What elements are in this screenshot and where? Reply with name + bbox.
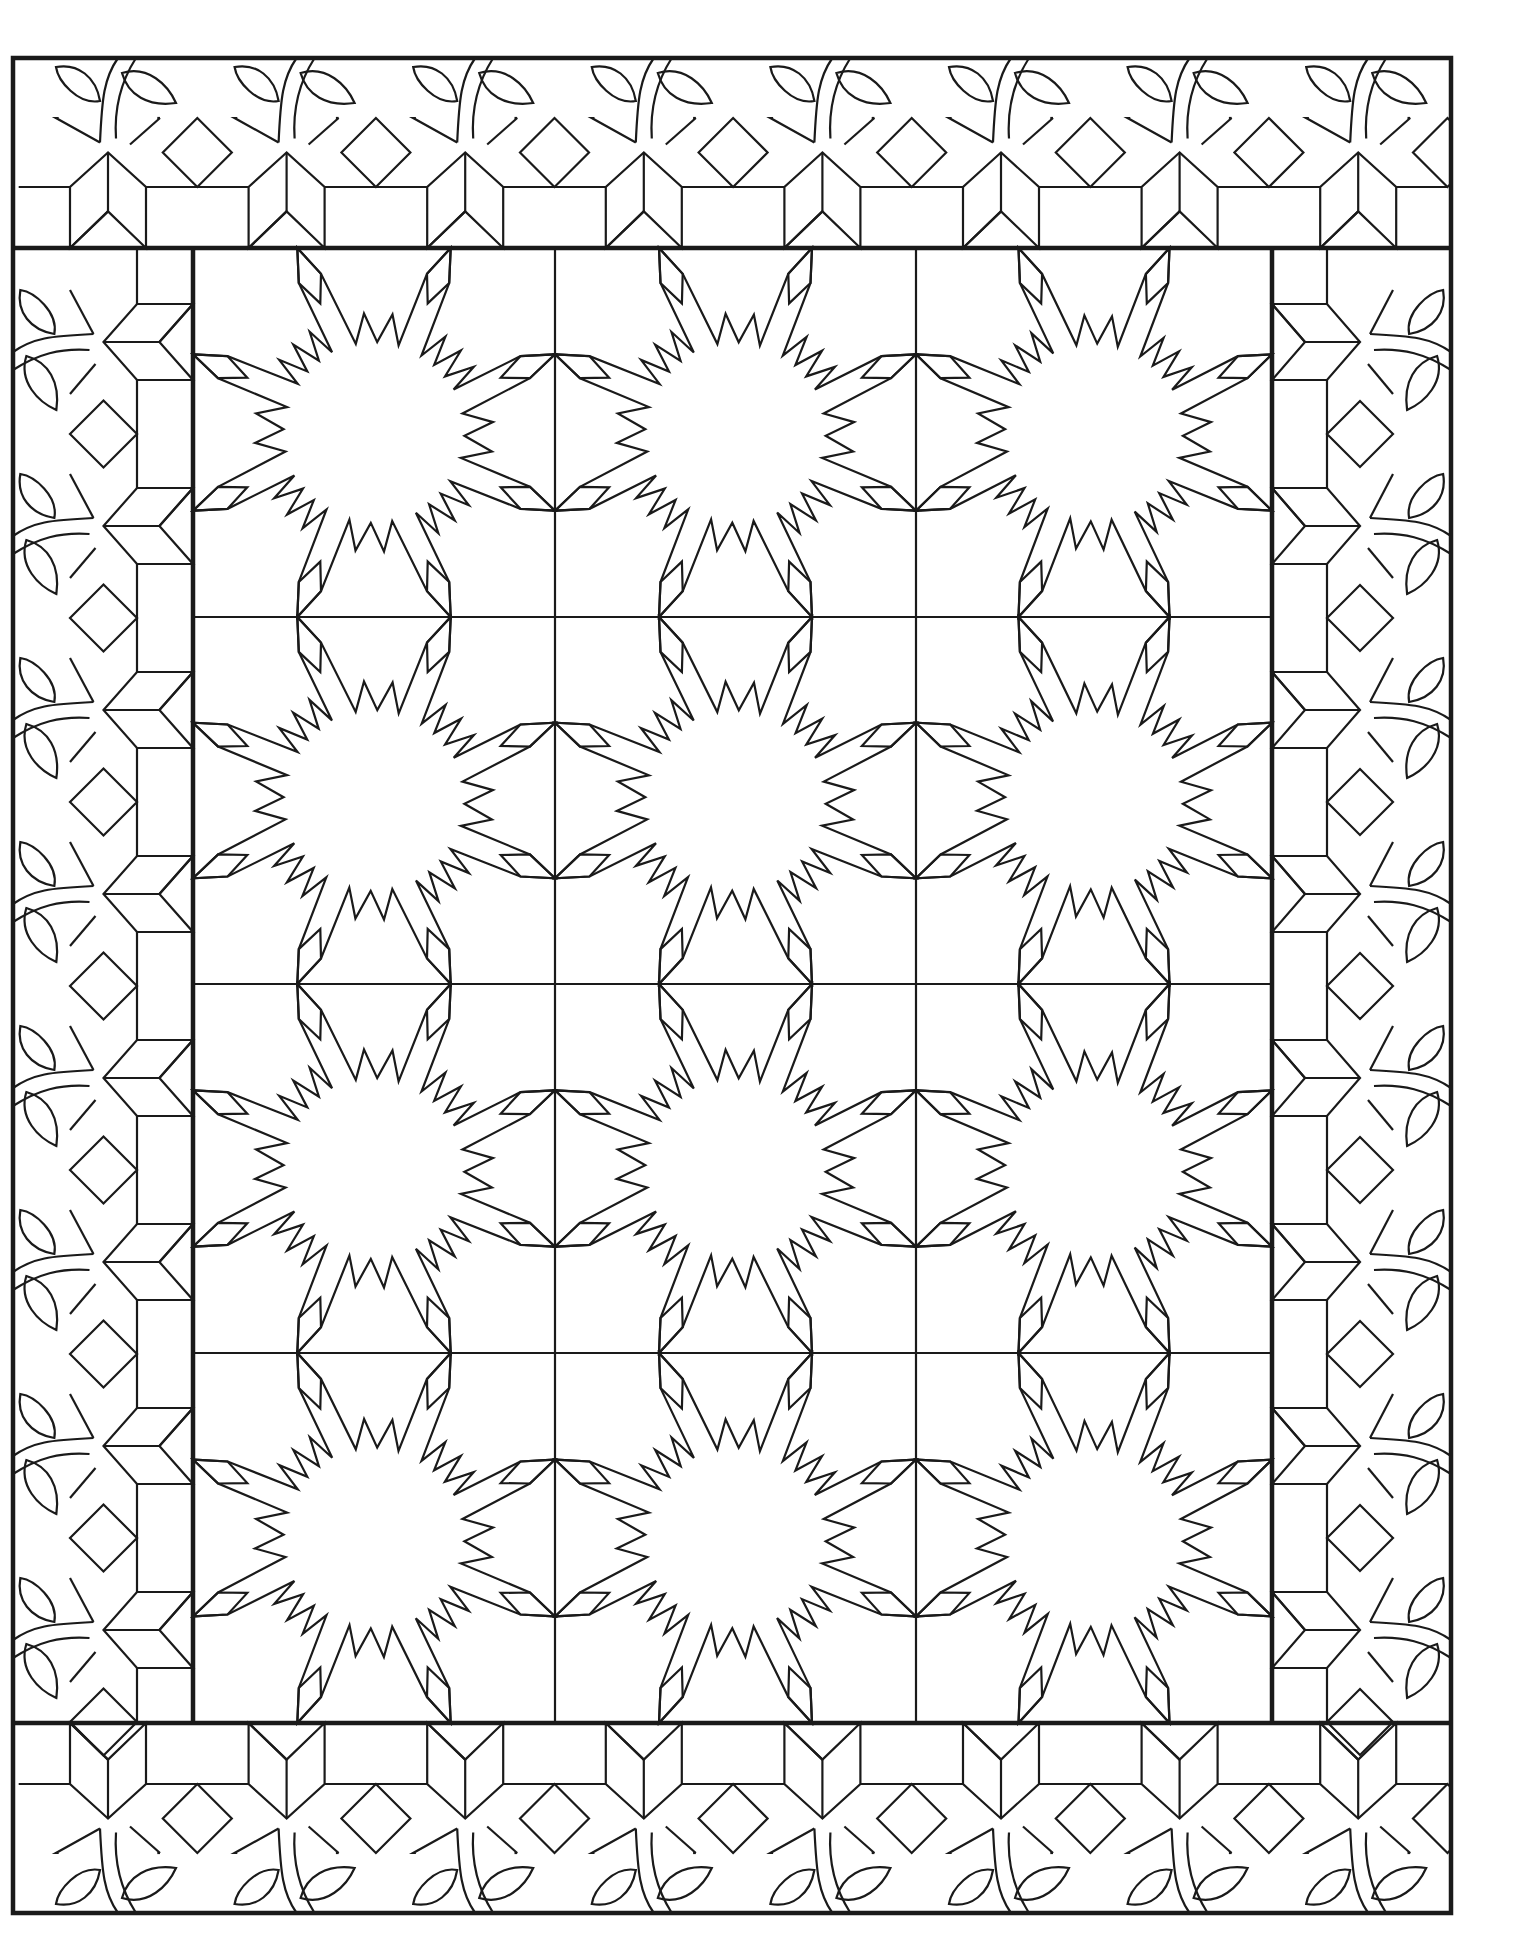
star-arm [70, 1578, 94, 1622]
sawtooth-star-icon [555, 1353, 916, 1723]
leaf-icon [122, 1867, 176, 1900]
leaf-icon [1409, 1210, 1444, 1254]
leaf-icon [122, 71, 176, 104]
star-point-diamond [1146, 562, 1170, 617]
border-unit [197, 58, 410, 248]
leaf-icon [1406, 1460, 1439, 1514]
star-point-diamond [788, 1353, 812, 1409]
star-point-diamond [1019, 984, 1043, 1039]
border-unit [19, 1723, 232, 1913]
star-arm [130, 1827, 160, 1854]
leaf-icon [1409, 474, 1444, 518]
star-point-diamond [501, 854, 555, 878]
diamond-icon [520, 118, 589, 187]
sawtooth-star-icon [555, 617, 916, 984]
leaf-icon [25, 356, 58, 410]
right-border [1272, 250, 1451, 1755]
star-point-diamond [297, 1298, 321, 1353]
border-unit [555, 58, 768, 248]
diamond-icon [520, 1784, 589, 1853]
star-arm [1370, 1210, 1393, 1254]
border-unit [1090, 58, 1303, 248]
leaf-icon [658, 71, 712, 104]
star-point-diamond [1219, 1460, 1272, 1484]
star-point-diamond [659, 617, 683, 672]
leaf-icon [1194, 71, 1248, 104]
star-arm [1202, 118, 1232, 145]
star-point-diamond [427, 617, 451, 672]
diamond-icon [699, 118, 768, 187]
diamond-icon [70, 1137, 137, 1204]
leaf-icon [1409, 1578, 1444, 1622]
star-point-diamond [297, 617, 321, 672]
star-arm [1380, 118, 1410, 145]
leaf-icon [1372, 1867, 1426, 1900]
top-border [19, 58, 1482, 248]
star-arm [70, 1026, 94, 1070]
diamond-icon [70, 585, 137, 652]
star-point-diamond [862, 1593, 916, 1617]
star-arm [56, 1829, 100, 1854]
leaf-icon [1409, 290, 1444, 334]
star-point-diamond [916, 1593, 969, 1617]
star-point-diamond [862, 1460, 916, 1484]
star-point-diamond [555, 854, 609, 878]
sawtooth-star-icon [193, 248, 555, 617]
leaf-icon [770, 66, 814, 101]
bottom-border [19, 1723, 1482, 1913]
star-point-diamond [1219, 723, 1272, 747]
star-point-diamond [427, 248, 451, 303]
star-arm [70, 916, 96, 946]
star-point-diamond [297, 562, 321, 617]
leaf-icon [413, 66, 457, 101]
diamond-icon [1234, 118, 1303, 187]
star-arm [1128, 118, 1172, 143]
leaf-icon [20, 658, 55, 702]
star-arm [70, 1394, 94, 1438]
leaf-icon [1409, 1394, 1444, 1438]
leaf-icon [25, 1644, 58, 1698]
leaf-icon [1409, 842, 1444, 886]
diamond-icon [1327, 1321, 1393, 1387]
star-arm [309, 118, 339, 145]
star-point-diamond [297, 248, 321, 303]
star-arm [666, 118, 696, 145]
star-point-diamond [1146, 617, 1170, 672]
star-point-diamond [501, 1460, 555, 1484]
star-point-diamond [916, 354, 969, 378]
leaf-icon [25, 1276, 58, 1330]
star-point-diamond [555, 487, 609, 511]
border-unit [733, 1723, 946, 1913]
leaf-icon [20, 1578, 55, 1622]
sawtooth-star-icon [193, 1353, 555, 1723]
star-point-diamond [1019, 617, 1043, 672]
leaf-icon [25, 1460, 58, 1514]
border-unit [13, 250, 193, 468]
star-point-diamond [916, 855, 969, 879]
leaf-icon [1406, 1276, 1439, 1330]
leaf-icon [56, 1870, 100, 1905]
star-arm [949, 1829, 993, 1854]
star-point-diamond [916, 723, 969, 747]
star-point-diamond [916, 1223, 969, 1247]
star-point-diamond [1019, 1668, 1043, 1724]
quilt-pattern [0, 0, 1513, 1959]
star-arm [70, 1652, 96, 1682]
star-arm [1370, 1026, 1393, 1070]
leaf-icon [836, 71, 890, 104]
star-point-diamond [193, 723, 247, 747]
star-arm [1306, 118, 1350, 143]
star-point-diamond [916, 1460, 969, 1484]
leaf-icon [235, 66, 279, 101]
diamond-icon [163, 1784, 232, 1853]
leaf-icon [1015, 1867, 1069, 1900]
star-point-diamond [1146, 1353, 1170, 1409]
leaf-icon [25, 1092, 58, 1146]
star-point-diamond [193, 854, 247, 878]
sawtooth-star-icon [916, 617, 1272, 984]
diamond-icon [1327, 585, 1393, 651]
star-arm [70, 732, 96, 762]
star-point-diamond [555, 1593, 609, 1617]
star-arm [413, 118, 457, 143]
star-arm [487, 1827, 517, 1854]
